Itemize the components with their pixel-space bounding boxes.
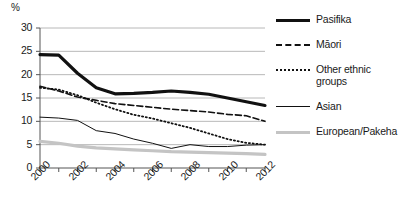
legend-label-maori: Māori bbox=[316, 39, 341, 51]
legend-item-maori: Māori bbox=[276, 39, 341, 51]
legend-label-pasifika: Pasifika bbox=[316, 14, 351, 26]
legend-item-pasifika: Pasifika bbox=[276, 14, 351, 26]
series-line-other-ethnic-groups bbox=[40, 88, 265, 145]
y-tick-0: 0 bbox=[10, 161, 32, 173]
legend-swatch-asian bbox=[276, 101, 310, 113]
legend-swatch-pasifika bbox=[276, 14, 310, 26]
legend-swatch-european-pakeha bbox=[276, 126, 310, 138]
y-axis-unit-label: % bbox=[11, 2, 20, 13]
y-tick-10: 10 bbox=[10, 114, 32, 126]
legend-swatch-maori bbox=[276, 39, 310, 51]
legend-item-asian: Asian bbox=[276, 101, 341, 113]
legend-item-european-pakeha: European/Pakeha bbox=[276, 126, 397, 138]
y-tick-5: 5 bbox=[10, 138, 32, 150]
legend-label-european-pakeha: European/Pakeha bbox=[316, 126, 397, 138]
y-tick-15: 15 bbox=[10, 91, 32, 103]
legend-item-other-ethnic-groups: Other ethnic groups bbox=[276, 64, 371, 87]
legend-label-asian: Asian bbox=[316, 101, 341, 113]
y-tick-20: 20 bbox=[10, 68, 32, 80]
y-tick-30: 30 bbox=[10, 21, 32, 33]
legend-swatch-other-ethnic-groups bbox=[276, 64, 310, 76]
y-tick-25: 25 bbox=[10, 44, 32, 56]
chart-root: % 302520151050 2000200220042006200820102… bbox=[0, 0, 399, 215]
data-series-layer bbox=[40, 55, 265, 155]
legend-label-other-ethnic-groups: Other ethnic groups bbox=[316, 64, 371, 87]
